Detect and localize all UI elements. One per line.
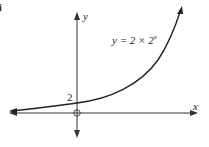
exponential-curve [12,9,181,111]
y-axis-label: y [82,10,88,22]
x-axis-label: x [192,100,198,112]
exponential-graph: i y x 2 y = 2 × 2x [0,0,209,147]
y-intercept-label: 2 [67,91,73,103]
curve-arrow-icon [177,6,183,14]
graph-canvas: i y x 2 y = 2 × 2x [0,0,209,147]
y-axis-arrow-icon [74,12,80,20]
equation-label: y = 2 × 2x [111,33,158,46]
y-axis-down-arrow-icon [74,130,80,138]
figure-label: i [0,2,2,13]
